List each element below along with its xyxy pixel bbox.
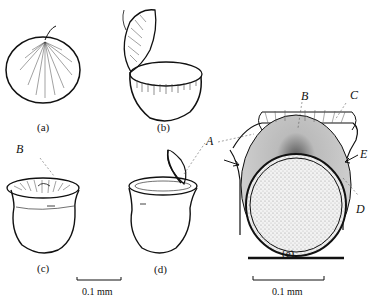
caption-d: (d) [154, 264, 167, 275]
figure-drawing [0, 0, 374, 302]
caption-a: (a) [37, 122, 49, 133]
label-d: D [356, 203, 365, 215]
panel-d-capsule [129, 143, 205, 253]
scale-bar-left [77, 277, 121, 280]
panel-c-capsule [7, 178, 79, 253]
caption-c: (c) [37, 263, 49, 274]
scale-bar-right [253, 276, 324, 280]
label-c: C [350, 89, 358, 101]
label-b-panel-c: B [16, 143, 23, 155]
panel-a-capsule [6, 26, 80, 103]
label-a: A [206, 135, 213, 147]
label-e: E [360, 148, 367, 160]
scale-label-left: 0.1 mm [82, 287, 113, 297]
caption-b: (b) [157, 122, 170, 133]
label-b-panel-e: B [301, 90, 308, 102]
panel-b-capsule [123, 10, 202, 121]
panel-e-capsule [40, 102, 358, 258]
caption-e: (e) [282, 248, 294, 259]
scale-label-right: 0.1 mm [272, 287, 303, 297]
